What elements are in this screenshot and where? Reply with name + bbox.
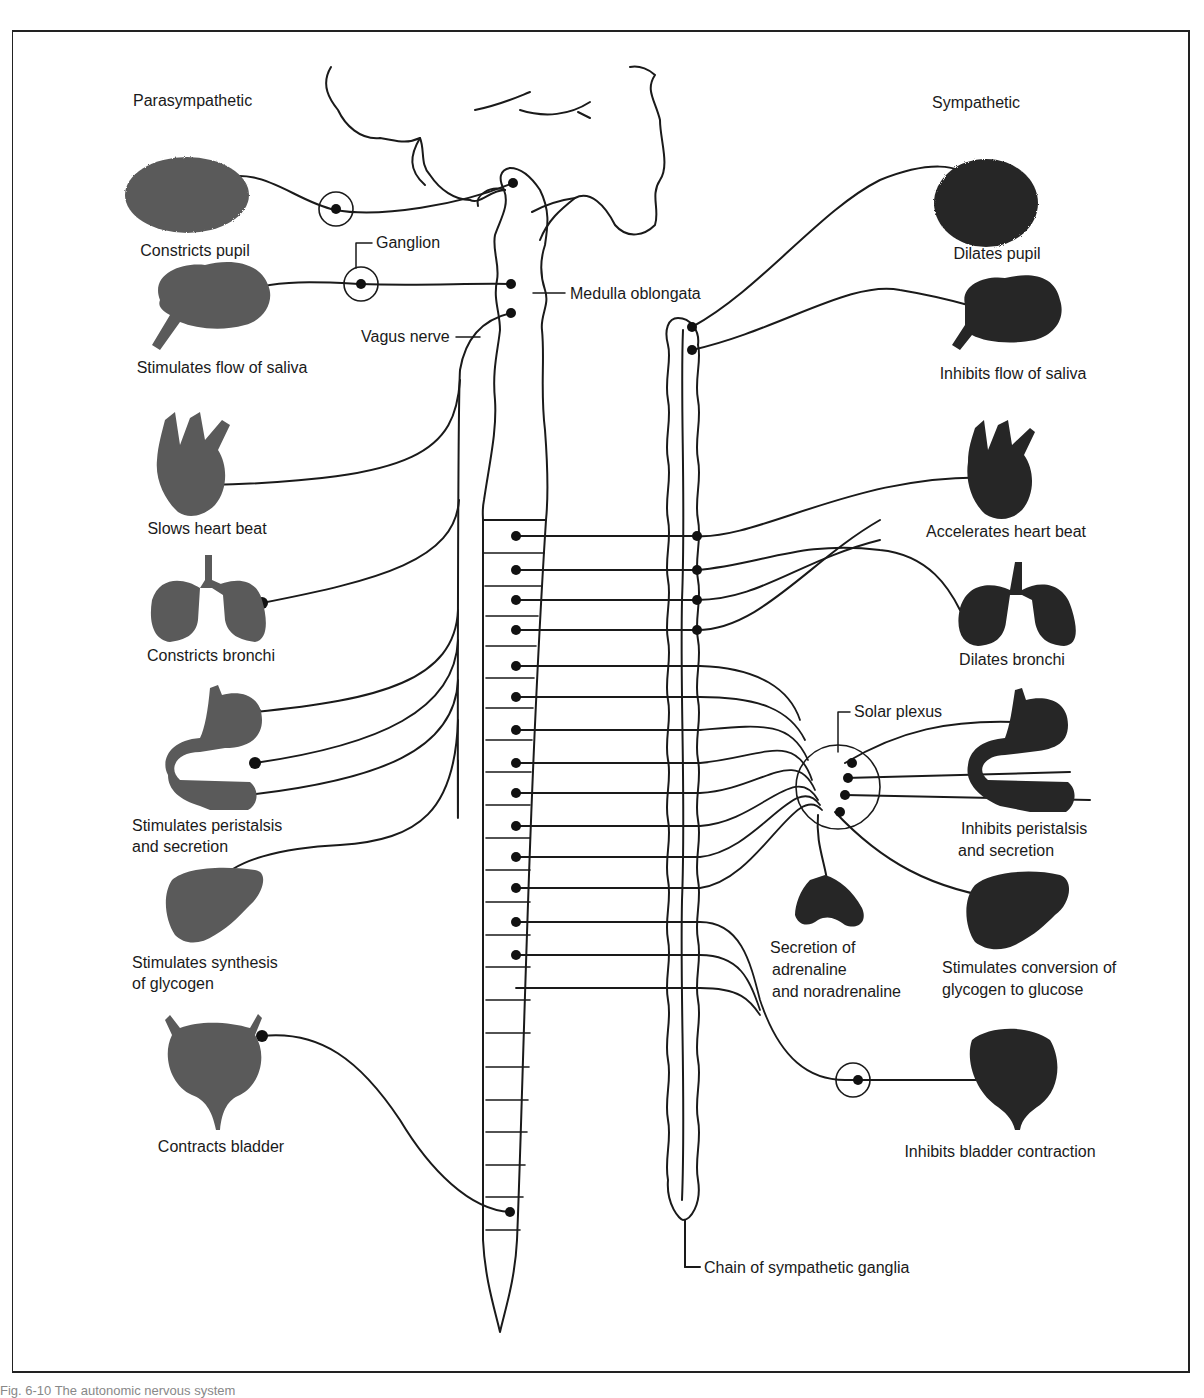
para-gut-label-2: and secretion (132, 836, 228, 857)
para-liver-label-1: Stimulates synthesis (132, 952, 278, 973)
para-liver-label-2: of glycogen (132, 973, 214, 994)
sympathetic-eye-icon (934, 159, 1038, 247)
para-bladder-label: Contracts bladder (158, 1136, 284, 1157)
figure-caption: Fig. 6-10 The autonomic nervous system (0, 1383, 235, 1398)
symp-eye-label: Dilates pupil (953, 243, 1040, 264)
medulla-outline (483, 168, 510, 520)
symp-gut-label-1: Inhibits peristalsis (961, 818, 1087, 839)
symp-heart-label: Accelerates heart beat (926, 521, 1086, 542)
sympathetic-bladder-icon (970, 1029, 1058, 1130)
parasympathetic-stomach-intestines-icon (165, 685, 262, 810)
sympathetic-heading: Sympathetic (932, 92, 1020, 113)
symp-gut-label-2: and secretion (958, 840, 1054, 861)
medulla-label: Medulla oblongata (570, 283, 701, 304)
symp-bladder-label: Inhibits bladder contraction (904, 1141, 1095, 1162)
vagus-nerve-label: Vagus nerve (361, 326, 450, 347)
parasympathetic-liver-icon (166, 868, 263, 943)
symp-adrenal-label-2: adrenaline (772, 959, 847, 980)
parasympathetic-salivary-gland-icon (152, 262, 270, 350)
sympathetic-salivary-gland-icon (952, 275, 1062, 350)
solar-plexus-label: Solar plexus (854, 701, 942, 722)
parasympathetic-heading: Parasympathetic (133, 90, 252, 111)
sympathetic-lungs-icon (958, 562, 1075, 646)
symp-adrenal-label-1: Secretion of (770, 937, 855, 958)
symp-adrenal-label-3: and noradrenaline (772, 981, 901, 1002)
sympathetic-liver-icon (966, 872, 1069, 950)
symp-liver-label-1: Stimulates conversion of (942, 957, 1116, 978)
parasympathetic-eye-icon (125, 157, 249, 233)
para-eye-label: Constricts pupil (140, 240, 249, 261)
sympathetic-heart-icon (967, 420, 1035, 519)
para-gut-label-1: Stimulates peristalsis (132, 815, 282, 836)
parasympathetic-heart-icon (157, 412, 230, 516)
sympathetic-adrenal-gland-icon (795, 875, 864, 926)
parasympathetic-lungs-icon (151, 555, 266, 642)
sympathetic-stomach-intestines-icon (967, 688, 1074, 812)
symp-lungs-label: Dilates bronchi (959, 649, 1065, 670)
ganglion-label: Ganglion (376, 232, 440, 253)
para-saliva-label: Stimulates flow of saliva (137, 357, 308, 378)
para-heart-label: Slows heart beat (147, 518, 266, 539)
symp-liver-label-2: glycogen to glucose (942, 979, 1083, 1000)
sympathetic-chain-label: Chain of sympathetic ganglia (704, 1257, 909, 1278)
symp-saliva-label: Inhibits flow of saliva (940, 363, 1087, 384)
brain-outline (326, 67, 664, 235)
para-lungs-label: Constricts bronchi (147, 645, 275, 666)
parasympathetic-bladder-icon (165, 1014, 262, 1130)
